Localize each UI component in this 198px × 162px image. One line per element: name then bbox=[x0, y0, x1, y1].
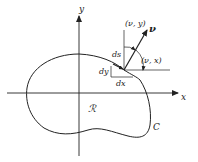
angle-arc-nu-y bbox=[124, 47, 135, 50]
angle-nu-y-label: (ν, y) bbox=[125, 19, 146, 28]
region-label: ℛ bbox=[88, 103, 97, 114]
normal-label: ν bbox=[149, 23, 156, 34]
dy-label: dy bbox=[99, 67, 109, 76]
dx-label: dx bbox=[116, 79, 126, 88]
x-axis-label: x bbox=[181, 92, 186, 102]
y-axis-label: y bbox=[78, 4, 85, 14]
diagram-canvas: y x ℛ C ν (ν, y) (ν, x) ds dy dx bbox=[0, 0, 198, 162]
curve-c bbox=[27, 54, 151, 137]
curve-label: C bbox=[153, 122, 160, 132]
ds-label: ds bbox=[112, 50, 121, 59]
angle-nu-x-label: (ν, x) bbox=[141, 56, 162, 65]
ds-arrow bbox=[113, 64, 123, 69]
differential-triangle bbox=[111, 66, 133, 77]
